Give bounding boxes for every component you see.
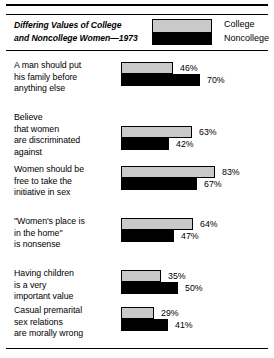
row-label-line: Women should be: [14, 164, 84, 174]
row-label-5: Casual premarital sex relations are mora…: [14, 305, 118, 340]
bar-value-college-0: 46%: [180, 63, 198, 74]
row-label-0: A man should put his family before anyth…: [14, 60, 118, 95]
row-label-line: important value: [14, 291, 73, 301]
legend-swatch-noncollege: [153, 32, 211, 44]
row-label-line: his family before: [14, 72, 77, 82]
bar-value-noncollege-5: 41%: [175, 320, 193, 331]
figure-title-line-2: and Noncollege Women—1973: [14, 33, 138, 43]
row-label-line: is nonsense: [14, 239, 60, 249]
figure-chart-differing-values: Differing Values of College and Noncolle…: [0, 0, 274, 358]
bar-value-noncollege-2: 67%: [204, 179, 222, 190]
row-label-3: "Women's place is in the home" is nonsen…: [14, 216, 118, 251]
bar-value-noncollege-0: 70%: [207, 75, 225, 86]
bar-value-college-2: 83%: [222, 167, 240, 178]
chart-header: Differing Values of College and Noncolle…: [6, 16, 268, 50]
legend-label-noncollege: Noncollege: [224, 32, 269, 46]
bar-noncollege-2: [121, 178, 197, 190]
page-title: Differing Values of College and Noncolle…: [14, 19, 154, 44]
row-label-line: that women: [14, 124, 59, 134]
bar-value-college-5: 29%: [161, 308, 179, 319]
bar-college-3: [121, 218, 193, 230]
bar-college-0: [121, 62, 173, 74]
row-label-line: initiative in sex: [14, 187, 70, 197]
legend-label-group: College Noncollege: [224, 18, 269, 45]
row-label-line: against: [14, 147, 42, 157]
header-top-rule: [6, 14, 268, 15]
bar-noncollege-3: [121, 230, 174, 242]
row-label-line: Casual premarital: [14, 305, 82, 315]
legend-label-college: College: [224, 18, 269, 32]
figure-title-line-1: Differing Values of College: [14, 20, 122, 30]
bar-value-noncollege-4: 50%: [185, 283, 203, 294]
bar-value-college-3: 64%: [200, 219, 218, 230]
top-border-rule: [6, 4, 268, 6]
row-label-line: anything else: [14, 83, 65, 93]
bar-noncollege-1: [121, 138, 169, 150]
row-label-line: is a very: [14, 280, 46, 290]
row-label-line: free to take the: [14, 176, 72, 186]
bar-noncollege-0: [121, 74, 200, 86]
legend-swatch-box: [152, 19, 212, 45]
row-label-line: Having children: [14, 268, 74, 278]
row-label-line: Believe: [14, 112, 43, 122]
bar-value-college-1: 63%: [199, 127, 217, 138]
row-label-line: "Women's place is: [14, 216, 85, 226]
row-label-line: in the home": [14, 228, 63, 238]
bar-college-1: [121, 126, 192, 138]
row-label-4: Having children is a very important valu…: [14, 268, 118, 303]
bar-college-5: [121, 307, 154, 319]
bar-noncollege-4: [121, 282, 178, 294]
row-label-line: are discriminated: [14, 135, 80, 145]
bar-value-noncollege-3: 47%: [181, 231, 199, 242]
bar-value-college-4: 35%: [168, 271, 186, 282]
row-label-line: are morally wrong: [14, 328, 83, 338]
header-bottom-rule: [6, 50, 268, 51]
row-label-1: Believe that women are discriminated aga…: [14, 112, 118, 158]
row-label-line: A man should put: [14, 60, 81, 70]
bar-value-noncollege-1: 42%: [176, 139, 194, 150]
row-label-2: Women should be free to take the initiat…: [14, 164, 118, 199]
bottom-border-rule: [6, 348, 268, 349]
bar-college-4: [121, 270, 161, 282]
bar-noncollege-5: [121, 319, 168, 331]
row-label-line: sex relations: [14, 317, 63, 327]
bar-college-2: [121, 166, 215, 178]
